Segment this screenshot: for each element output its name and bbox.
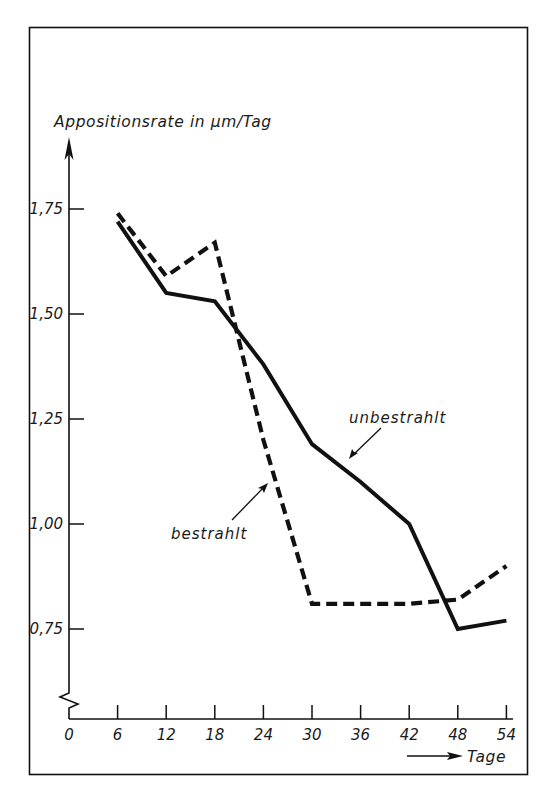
x-tick-label: 42 bbox=[400, 726, 419, 744]
series-label-unbestrahlt: unbestrahlt bbox=[349, 409, 446, 427]
x-axis-title: Tage bbox=[467, 748, 506, 766]
y-tick-label: 0,75 bbox=[30, 620, 63, 638]
series-unbestrahlt-line bbox=[118, 222, 507, 629]
figure-frame bbox=[30, 28, 528, 775]
y-tick-label: 1,25 bbox=[30, 410, 63, 428]
x-tick-label: 18 bbox=[205, 726, 224, 744]
x-tick-label: 54 bbox=[497, 726, 516, 744]
line-chart: Appositionsrate in µm/Tag 0,751,001,251,… bbox=[0, 0, 555, 804]
x-tick-label: 48 bbox=[448, 726, 467, 744]
series-bestrahlt-line bbox=[118, 213, 507, 604]
x-tick-label: 0 bbox=[64, 726, 74, 744]
x-ticks: 061218243036424854 bbox=[64, 705, 516, 744]
x-tick-label: 6 bbox=[113, 726, 123, 744]
x-tick-label: 36 bbox=[351, 726, 370, 744]
y-ticks: 0,751,001,251,501,75 bbox=[30, 200, 84, 638]
y-axis-title: Appositionsrate in µm/Tag bbox=[53, 113, 272, 131]
series-label-bestrahlt: bestrahlt bbox=[171, 525, 247, 543]
x-tick-label: 12 bbox=[157, 726, 176, 744]
annotation-arrow-bestrahlt bbox=[232, 483, 268, 520]
y-tick-label: 1,00 bbox=[30, 515, 63, 533]
arrowhead-icon bbox=[349, 449, 358, 459]
x-tick-label: 24 bbox=[254, 726, 273, 744]
y-tick-label: 1,75 bbox=[30, 200, 63, 218]
y-tick-label: 1,50 bbox=[30, 305, 63, 323]
annotation-arrow-unbestrahlt bbox=[349, 428, 381, 459]
x-tick-label: 30 bbox=[302, 726, 321, 744]
